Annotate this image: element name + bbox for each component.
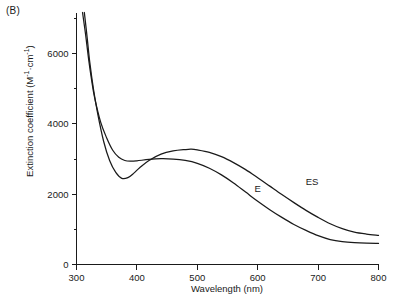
curve-e [83, 13, 379, 244]
axis-lines [77, 13, 379, 265]
plot-area: 0200040006000300400500600700800EES [0, 0, 393, 303]
x-tick-label: 700 [310, 272, 326, 283]
figure-panel-b: (B) Extinction coefficient (M-1·cm-1) Wa… [0, 0, 393, 303]
x-tick-label: 800 [371, 272, 387, 283]
y-tick-label: 2000 [47, 189, 68, 200]
series-label-e: E [255, 183, 261, 194]
x-tick-label: 500 [189, 272, 205, 283]
x-tick-label: 400 [129, 272, 145, 283]
series-label-es: ES [306, 176, 319, 187]
x-tick-label: 300 [69, 272, 85, 283]
y-tick-label: 0 [63, 259, 68, 270]
x-tick-label: 600 [250, 272, 266, 283]
curve-es [84, 13, 378, 236]
y-tick-label: 6000 [47, 48, 68, 59]
y-tick-label: 4000 [47, 118, 68, 129]
